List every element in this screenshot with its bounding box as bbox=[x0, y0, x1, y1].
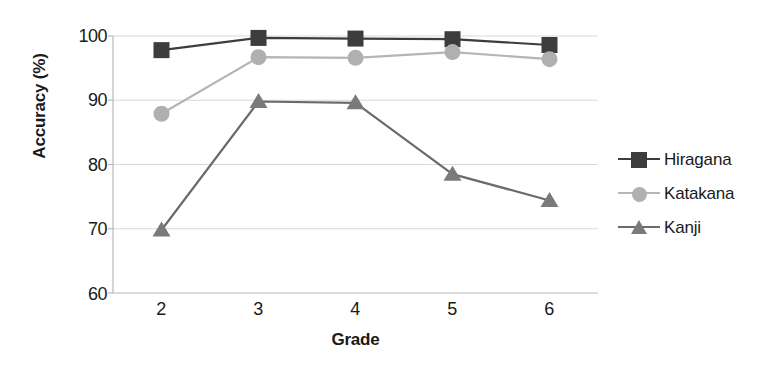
data-point-katakana bbox=[445, 44, 461, 60]
legend-item-hiragana: Hiragana bbox=[618, 142, 778, 176]
data-point-katakana bbox=[154, 106, 170, 122]
accuracy-by-grade-chart: Accuracy (%) 100 90 80 70 60 2 3 4 5 6 G… bbox=[0, 0, 779, 372]
legend-key-triangle-icon bbox=[618, 215, 660, 239]
legend-label: Kanji bbox=[660, 219, 701, 236]
series-line-kanji bbox=[162, 102, 550, 231]
data-point-kanji bbox=[444, 166, 462, 181]
data-point-katakana bbox=[251, 49, 267, 65]
data-point-hiragana bbox=[542, 37, 558, 53]
data-point-hiragana bbox=[251, 30, 267, 46]
legend-label: Katakana bbox=[660, 185, 734, 202]
chart-legend: Hiragana Katakana Kanji bbox=[618, 142, 778, 244]
legend-label: Hiragana bbox=[660, 151, 731, 168]
data-point-hiragana bbox=[154, 42, 170, 58]
legend-key-circle-icon bbox=[618, 181, 660, 205]
legend-item-katakana: Katakana bbox=[618, 176, 778, 210]
legend-item-kanji: Kanji bbox=[618, 210, 778, 244]
legend-key-square-icon bbox=[618, 147, 660, 171]
data-point-katakana bbox=[542, 51, 558, 67]
data-point-katakana bbox=[348, 50, 364, 66]
data-point-hiragana bbox=[348, 31, 364, 47]
